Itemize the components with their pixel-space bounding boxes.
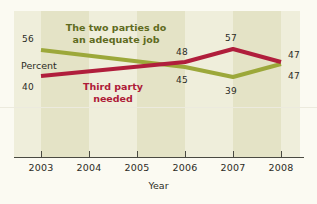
chart-figure: 2003 2004 2005 2006 2007 2008 Year Perce…	[0, 0, 317, 204]
x-axis-label-2003: 2003	[19, 162, 63, 173]
data-label-olive-2008: 47	[288, 71, 300, 81]
percent-note: Percent	[21, 60, 57, 71]
x-axis-label-2005: 2005	[115, 162, 159, 173]
x-axis-label-2006: 2006	[163, 162, 207, 173]
x-tick-2005	[137, 151, 138, 157]
data-label-olive-2006: 45	[176, 75, 188, 85]
x-tick-2007	[233, 151, 234, 157]
crimson-series-label: Third party needed	[72, 81, 154, 104]
x-axis-label-2008: 2008	[259, 162, 303, 173]
olive-series-label: The two parties do an adequate job	[62, 22, 170, 45]
data-label-red-2003: 40	[22, 82, 34, 92]
data-label-red-2007: 57	[225, 33, 237, 43]
x-axis-label-2007: 2007	[211, 162, 255, 173]
x-tick-2004	[89, 151, 90, 157]
data-label-red-2008: 47	[288, 50, 300, 60]
x-tick-2006	[185, 151, 186, 157]
data-label-olive-2003: 56	[22, 34, 34, 44]
data-label-red-2006: 48	[176, 47, 188, 57]
x-axis-title: Year	[0, 180, 317, 191]
x-tick-2003	[41, 151, 42, 157]
x-tick-2008	[281, 151, 282, 157]
x-axis-line	[14, 157, 304, 158]
x-axis-label-2004: 2004	[67, 162, 111, 173]
data-label-olive-2007: 39	[225, 86, 237, 96]
